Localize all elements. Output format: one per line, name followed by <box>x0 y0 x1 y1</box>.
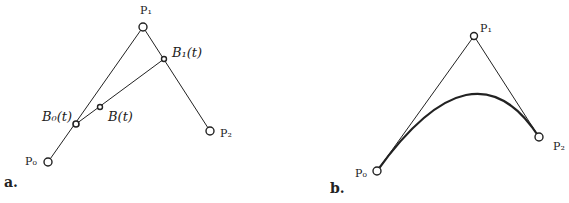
label-a-p0: P₀ <box>25 155 37 168</box>
caption-a: a. <box>4 174 18 190</box>
label-b0: B₀(t) <box>41 109 72 124</box>
point-p1 <box>139 23 147 31</box>
point-p0 <box>373 167 381 175</box>
point-b1 <box>162 57 167 62</box>
control-segment-p1-p2 <box>143 27 210 131</box>
point-p0 <box>44 158 52 166</box>
label-b: B(t) <box>107 109 133 124</box>
label-b-p1: P₁ <box>480 22 492 35</box>
label-b-p0: P₀ <box>355 167 367 180</box>
point-b0 <box>73 121 79 127</box>
point-p2 <box>535 133 543 141</box>
panel-b <box>373 33 543 176</box>
bezier-diagram: P₁ B₁(t) B₀(t) B(t) P₂ P₀ a. P₁ P₂ P₀ b. <box>0 0 569 203</box>
label-b-p2: P₂ <box>553 140 565 153</box>
control-segment-p0-p1 <box>48 27 143 162</box>
bezier-curve <box>377 94 539 171</box>
label-b1: B₁(t) <box>171 45 202 60</box>
label-a-p1: P₁ <box>140 4 152 17</box>
caption-b: b. <box>330 180 345 196</box>
point-p1 <box>471 33 478 40</box>
point-p2 <box>206 127 214 135</box>
point-b <box>98 105 103 110</box>
label-a-p2: P₂ <box>220 127 232 140</box>
